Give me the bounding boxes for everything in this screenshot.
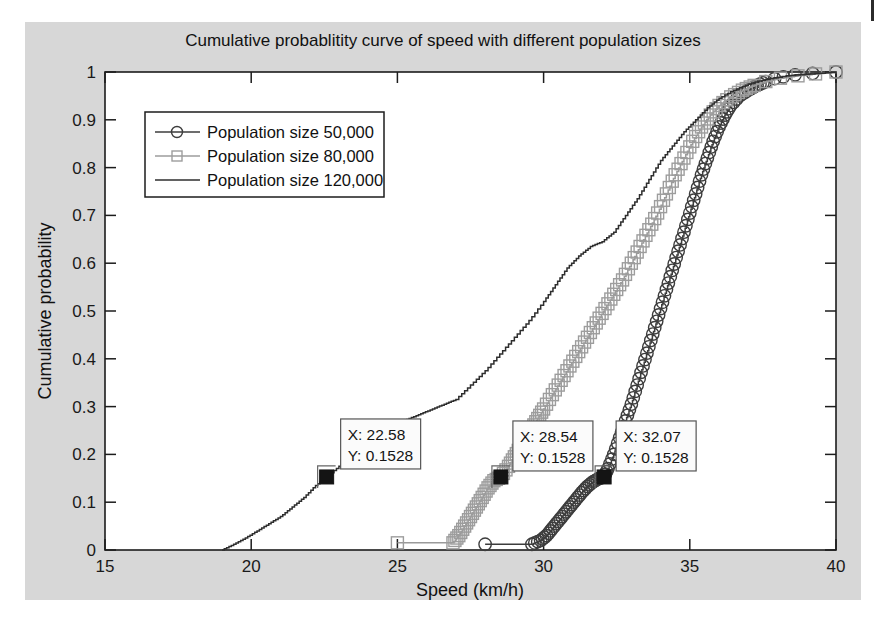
x-tick-label: 15: [96, 557, 115, 576]
figure-panel: Cumulative probablitity curve of speed w…: [25, 22, 861, 600]
data-tip-y-value: Y: 0.1528: [348, 447, 414, 464]
x-tick-label: 35: [680, 557, 699, 576]
legend-label: Population size 50,000: [207, 123, 374, 141]
legend[interactable]: Population size 50,000 Population size 8…: [145, 112, 384, 197]
legend-label: Population size 80,000: [207, 147, 374, 165]
x-axis-tick-labels: 15 20 25 30 35 40: [96, 557, 846, 576]
data-tip-marker: [320, 470, 334, 484]
y-tick-label: 0.5: [72, 302, 96, 321]
x-tick-label: 30: [534, 557, 553, 576]
chart-title: Cumulative probablitity curve of speed w…: [185, 31, 701, 50]
y-axis-tick-labels: 0 0.1 0.2 0.3 0.4 0.5 0.6 0.7 0.8 0.9 1: [72, 63, 96, 560]
data-tip-x-value: X: 32.07: [623, 428, 681, 445]
y-tick-label: 0.3: [72, 398, 96, 417]
y-tick-label: 0.6: [72, 254, 96, 273]
x-axis-title: Speed (km/h): [416, 580, 524, 600]
x-tick-label: 25: [388, 557, 407, 576]
y-tick-label: 0: [87, 541, 96, 560]
data-tip-y-value: Y: 0.1528: [623, 449, 689, 466]
y-tick-label: 0.2: [72, 445, 96, 464]
x-tick-label: 40: [827, 557, 846, 576]
data-tip-x-value: X: 28.54: [520, 428, 578, 445]
y-tick-label: 0.8: [72, 159, 96, 178]
legend-label: Population size 120,000: [207, 171, 383, 189]
data-tip-x-value: X: 22.58: [348, 426, 406, 443]
data-tip-marker: [494, 470, 508, 484]
y-tick-label: 0.9: [72, 111, 96, 130]
page-edge-artifact: [871, 0, 874, 21]
x-tick-label: 20: [242, 557, 261, 576]
y-axis-title: Cumulative probability: [35, 222, 55, 399]
y-tick-label: 1: [87, 63, 96, 82]
data-tip-y-value: Y: 0.1528: [520, 449, 586, 466]
y-tick-label: 0.1: [72, 493, 96, 512]
chart-svg[interactable]: Cumulative probablitity curve of speed w…: [25, 22, 861, 600]
y-tick-label: 0.4: [72, 350, 96, 369]
y-tick-label: 0.7: [72, 206, 96, 225]
data-tip-marker: [597, 470, 611, 484]
